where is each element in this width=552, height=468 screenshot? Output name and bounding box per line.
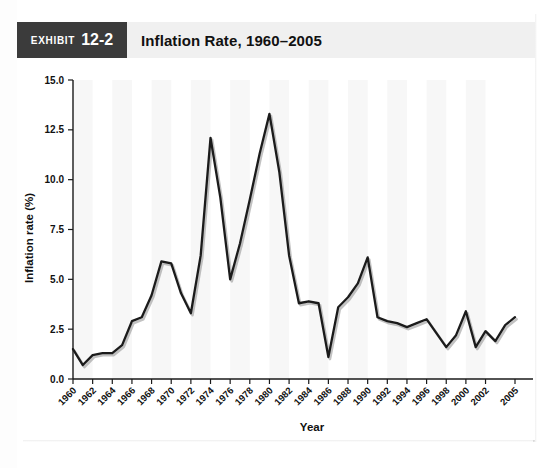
y-axis-ticks: 0.02.55.07.510.012.515.0 (45, 75, 73, 385)
x-tick-label: 2000 (449, 385, 472, 408)
chart-body: 0.02.55.07.510.012.515.0 196019621964196… (17, 58, 535, 440)
x-tick-label: 1968 (134, 385, 157, 408)
x-tick-label: 1962 (75, 385, 98, 408)
exhibit-title: Inflation Rate, 1960–2005 (141, 22, 322, 58)
y-tick-label: 5.0 (50, 274, 64, 285)
background-stripe (73, 80, 93, 379)
y-tick-label: 7.5 (50, 224, 64, 235)
exhibit-number: 12-2 (81, 31, 113, 49)
x-tick-label: 1964 (95, 384, 118, 407)
x-tick-label: 1978 (232, 385, 255, 408)
exhibit-figure-panel: EXHIBIT 12-2 Inflation Rate, 1960–2005 0… (17, 8, 535, 440)
background-stripe (348, 80, 368, 379)
y-tick-label: 15.0 (45, 75, 65, 86)
x-tick-label: 1998 (429, 385, 452, 408)
x-tick-label: 1966 (115, 385, 138, 408)
x-tick-label: 2002 (468, 385, 491, 408)
x-axis-ticks: 1960196219641966196819701972197419761978… (56, 379, 521, 407)
x-tick-label: 1974 (193, 384, 216, 407)
y-tick-label: 10.0 (45, 174, 65, 185)
x-tick-label: 1992 (370, 385, 393, 408)
x-axis-title: Year (300, 421, 325, 433)
background-stripe (230, 80, 250, 379)
x-tick-label: 1960 (56, 385, 79, 408)
background-stripe (387, 80, 407, 379)
y-tick-label: 12.5 (45, 124, 65, 135)
x-tick-label: 1986 (311, 385, 334, 408)
exhibit-tag: EXHIBIT 12-2 (17, 22, 127, 58)
y-tick-label: 0.0 (50, 374, 64, 385)
x-tick-label: 1980 (252, 385, 275, 408)
x-tick-label: 1982 (272, 385, 295, 408)
x-tick-label: 1970 (154, 385, 177, 408)
x-tick-label: 1972 (174, 385, 197, 408)
x-tick-label: 1988 (331, 385, 354, 408)
x-tick-label: 1996 (409, 385, 432, 408)
background-stripe (152, 80, 172, 379)
inflation-series-line (73, 114, 515, 365)
x-tick-label: 1976 (213, 385, 236, 408)
x-tick-label: 1994 (390, 384, 413, 407)
inflation-series-shadow (75, 116, 517, 367)
y-axis-title: Inflation rate (%) (23, 193, 35, 283)
y-tick-label: 2.5 (50, 324, 64, 335)
x-tick-label: 2005 (498, 384, 521, 407)
background-stripes (73, 80, 486, 379)
x-tick-label: 1990 (350, 385, 373, 408)
page-left-margin (0, 0, 17, 468)
x-tick-label: 1984 (291, 384, 314, 407)
background-stripe (191, 80, 211, 379)
exhibit-label: EXHIBIT (31, 35, 75, 46)
inflation-rate-line-chart: 0.02.55.07.510.012.515.0 196019621964196… (17, 58, 535, 440)
